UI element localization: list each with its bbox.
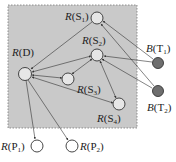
label-t1: B(T1) xyxy=(146,42,171,56)
label-s2: R(S2) xyxy=(81,34,106,48)
label-s3: R(S3) xyxy=(76,83,101,97)
dependency-diagram: R(S1) R(S2) R(D) R(S3) R(S4) B(T1) B(T2)… xyxy=(0,0,176,162)
node-p1 xyxy=(31,140,43,152)
label-s1: R(S1) xyxy=(64,10,89,24)
node-t2 xyxy=(153,86,164,97)
label-p2: R(P2) xyxy=(79,140,104,154)
label-p1: R(P1) xyxy=(0,140,25,154)
label-d: R(D) xyxy=(11,46,34,59)
node-s3 xyxy=(62,73,74,85)
node-t1 xyxy=(153,58,164,69)
node-s4 xyxy=(113,98,125,110)
label-t2: B(T2) xyxy=(147,101,172,115)
node-d xyxy=(19,68,32,81)
node-s1 xyxy=(91,12,103,24)
node-s2 xyxy=(91,49,103,61)
label-s4: R(S4) xyxy=(96,112,121,126)
node-p2 xyxy=(66,140,78,152)
